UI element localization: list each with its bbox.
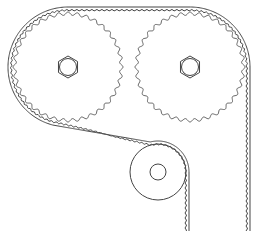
belt-drive-diagram: [0, 0, 262, 231]
left-pulley: [13, 12, 123, 122]
pulley-teeth: [13, 12, 123, 122]
idler-hub: [150, 164, 166, 180]
right-pulley: [135, 12, 245, 122]
pulley-teeth: [135, 12, 245, 122]
